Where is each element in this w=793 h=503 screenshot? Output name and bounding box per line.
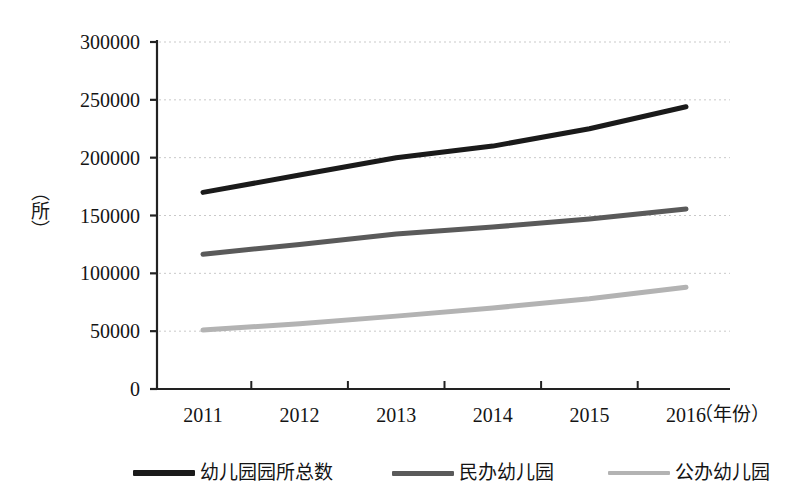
x-axis-tick-labels: （年份） 201120122013201420152016	[0, 398, 793, 438]
chart-legend: 幼儿园园所总数民办幼儿园公办幼儿园	[0, 458, 793, 498]
legend-item-2[interactable]: 公办幼儿园	[608, 458, 770, 488]
x-axis-tick-label: 2013	[376, 404, 416, 426]
legend-item-1[interactable]: 民办幼儿园	[392, 458, 554, 488]
x-axis-tick-label: 2015	[569, 404, 609, 426]
x-axis-ticks	[251, 381, 637, 389]
series-line-2	[203, 287, 686, 330]
legend-swatch-icon	[133, 470, 195, 476]
legend-item-0[interactable]: 幼儿园园所总数	[133, 458, 333, 488]
x-axis-tick-label: 2012	[280, 404, 320, 426]
legend-swatch-icon	[392, 471, 454, 476]
x-axis-tick-label: 2016	[666, 404, 706, 426]
legend-swatch-icon	[608, 471, 670, 475]
x-axis-tick-label: 2014	[473, 404, 513, 426]
legend-label: 民办幼儿园	[459, 462, 554, 484]
line-chart: （所） 050000100000150000200000250000300000…	[0, 0, 793, 503]
legend-label: 幼儿园园所总数	[200, 462, 333, 484]
x-axis-tick-label: 2011	[183, 404, 222, 426]
series-line-0	[203, 107, 686, 193]
data-series	[203, 107, 686, 330]
legend-label: 公办幼儿园	[675, 462, 770, 484]
